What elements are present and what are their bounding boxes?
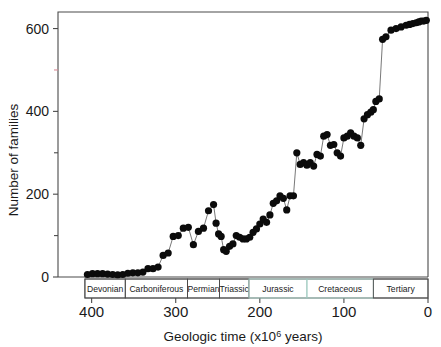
data-point [175, 232, 182, 239]
data-point [218, 233, 225, 240]
period-label-permian: Permian [187, 284, 219, 294]
x-tick-label: 200 [247, 303, 272, 320]
x-tick-label: 300 [163, 303, 188, 320]
data-point [290, 192, 297, 199]
data-point [382, 33, 389, 40]
data-point [423, 17, 430, 24]
data-point [337, 152, 344, 159]
y-tick-label: 0 [41, 269, 49, 285]
data-point [354, 134, 361, 141]
data-point [165, 249, 172, 256]
data-point [229, 240, 236, 247]
data-point [323, 131, 330, 138]
data-point [370, 106, 377, 113]
data-point [185, 224, 192, 231]
data-point [210, 201, 217, 208]
period-label-devonian: Devonian [87, 284, 124, 294]
data-point [376, 95, 383, 102]
y-tick-label: 400 [26, 103, 50, 119]
data-point [317, 152, 324, 159]
period-label-tertiary: Tertiary [387, 284, 416, 294]
data-point [330, 141, 337, 148]
x-tick-label: 100 [331, 303, 356, 320]
data-point [357, 142, 364, 149]
data-point [190, 241, 197, 248]
x-axis-title: Geologic time (x106 years) [164, 329, 323, 344]
y-tick-label: 200 [26, 186, 50, 202]
y-axis-title: Number of families [6, 103, 21, 216]
data-point [293, 149, 300, 156]
data-point [310, 162, 317, 169]
data-point [263, 219, 270, 226]
data-point [200, 225, 207, 232]
data-point [205, 207, 212, 214]
data-point [283, 206, 290, 213]
x-axis-title-tail: years) [281, 329, 322, 344]
period-label-carboniferous: Carboniferous [129, 284, 183, 294]
chart-background [0, 0, 441, 347]
data-point [212, 220, 219, 227]
x-axis-title-base: Geologic time (x10 [164, 329, 277, 344]
data-point [266, 211, 273, 218]
period-label-cretaceous: Cretaceous [318, 284, 362, 294]
diversity-chart: DevonianCarboniferousPermianTriassicJura… [0, 0, 441, 347]
x-tick-label: 0 [424, 303, 432, 320]
y-tick-label: 600 [26, 21, 50, 37]
x-tick-label: 400 [79, 303, 104, 320]
period-label-triassic: Triassic [220, 284, 250, 294]
period-label-jurassic: Jurassic [262, 284, 294, 294]
data-point [280, 195, 287, 202]
data-point [154, 263, 161, 270]
